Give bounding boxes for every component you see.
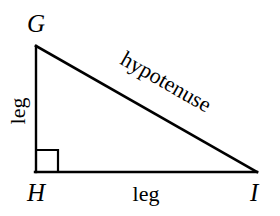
side-label-horizontal-leg: leg — [133, 183, 160, 205]
vertex-label-g: G — [27, 11, 45, 36]
side-label-vertical-leg: leg — [7, 98, 29, 125]
right-angle-marker-icon — [36, 150, 58, 172]
vertex-label-h: H — [27, 180, 45, 205]
right-triangle-figure: G H I leg leg hypotenuse — [0, 0, 280, 216]
vertex-label-i: I — [250, 180, 258, 205]
